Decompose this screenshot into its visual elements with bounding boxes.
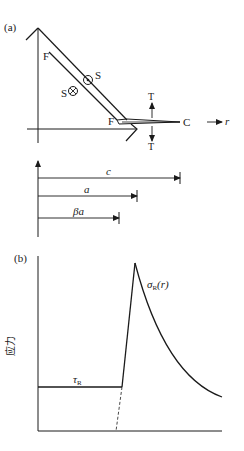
- dimension-a-label: a: [84, 183, 90, 195]
- stress-rise-line: [122, 263, 135, 387]
- dimension-beta-a-label: βa: [72, 205, 84, 217]
- circle-cross-icon: [69, 87, 78, 96]
- circle-dot-icon: [84, 76, 93, 85]
- surface-left-arm: [26, 28, 38, 40]
- panel-a: (a) F F S S C T: [4, 21, 230, 152]
- label-T-bottom: T: [148, 141, 154, 152]
- panel-b-label: (b): [14, 252, 27, 265]
- dimension-c-label: c: [106, 165, 111, 177]
- label-r: r: [225, 115, 230, 127]
- label-S-left: S: [61, 87, 67, 99]
- label-C: C: [183, 116, 190, 128]
- label-T-top: T: [148, 91, 154, 102]
- label-F-top: F: [43, 50, 49, 62]
- stress-axis-label: 应力: [4, 336, 16, 356]
- label-S-right: S: [95, 69, 101, 81]
- sigma-label: σR(r): [147, 278, 169, 292]
- outer-fault-surface: [38, 28, 127, 120]
- panel-b: (b) 应力 τR σR(r): [4, 252, 222, 431]
- inner-fault-surface: [49, 52, 117, 120]
- extrapolation-dashed-line: [116, 387, 122, 431]
- dimension-panel: c a βa: [38, 161, 180, 237]
- diagram-canvas: (a) F F S S C T: [0, 0, 244, 451]
- surface-chevron: [126, 124, 137, 141]
- tau-label: τR: [73, 373, 82, 387]
- label-F-bottom: F: [108, 115, 114, 127]
- panel-a-label: (a): [4, 21, 17, 34]
